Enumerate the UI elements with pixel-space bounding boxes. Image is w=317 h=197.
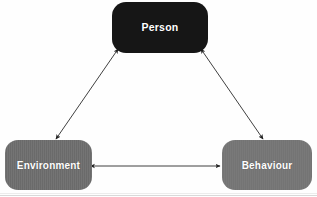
- page-edge-artifact: [0, 195, 317, 196]
- node-environment: Environment: [5, 140, 92, 190]
- page-edge-artifact: [0, 193, 317, 194]
- node-behaviour: Behaviour: [222, 140, 312, 190]
- diagram-canvas: Person Environment Behaviour: [0, 0, 317, 197]
- node-behaviour-label: Behaviour: [242, 160, 293, 171]
- node-environment-label: Environment: [17, 160, 80, 171]
- arrow-person-environment: [56, 52, 116, 139]
- node-person: Person: [112, 2, 208, 53]
- node-person-label: Person: [142, 22, 179, 34]
- arrow-person-behaviour: [203, 52, 263, 139]
